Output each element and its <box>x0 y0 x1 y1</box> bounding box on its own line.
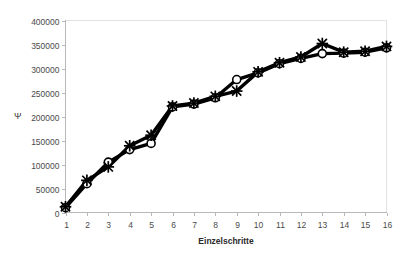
data-point-x <box>124 140 136 152</box>
y-axis-tick-labels: 0500001000001500002000002500003000003500… <box>31 17 60 219</box>
y-axis-tick-label: 250000 <box>31 89 60 99</box>
x-axis-tick-label: 8 <box>213 220 218 230</box>
x-axis-tick-label: 13 <box>318 220 328 230</box>
x-axis-tick-label: 12 <box>297 220 307 230</box>
data-point-x <box>210 91 222 103</box>
data-point-x <box>338 46 350 58</box>
y-axis-tick-label: 300000 <box>31 65 60 75</box>
x-axis-title: Einzelschritte <box>198 236 254 246</box>
x-axis-tick-label: 10 <box>254 220 264 230</box>
data-point-x <box>252 66 264 78</box>
data-point-x <box>188 97 200 109</box>
data-point-x <box>231 85 243 97</box>
data-point-x <box>103 161 115 173</box>
y-axis-tick-label: 150000 <box>31 137 60 147</box>
data-point-x <box>145 129 157 141</box>
x-axis-tick-label: 14 <box>340 220 350 230</box>
y-axis-tick-label: 100000 <box>31 161 60 171</box>
data-point-x <box>295 51 307 63</box>
y-axis-tick-label: 350000 <box>31 41 60 51</box>
y-axis-tick-label: 50000 <box>36 185 60 195</box>
data-point-x <box>81 175 93 187</box>
y-axis-tick-label: 400000 <box>31 17 60 27</box>
x-axis-tick-label: 7 <box>192 220 197 230</box>
x-axis-tick-label: 6 <box>171 220 176 230</box>
x-axis-tick-label: 4 <box>128 220 133 230</box>
data-point-circle <box>318 50 326 58</box>
x-axis-tick-label: 5 <box>149 220 154 230</box>
data-point-x <box>381 41 393 53</box>
line-chart: 0500001000001500002000002500003000003500… <box>0 0 402 257</box>
x-axis-tick-label: 2 <box>85 220 90 230</box>
x-axis-tick-label: 11 <box>276 220 285 230</box>
x-axis-tick-label: 3 <box>106 220 111 230</box>
data-point-x <box>274 57 286 69</box>
y-axis-tick-label: 0 <box>55 209 60 219</box>
data-point-x <box>359 45 371 57</box>
y-axis-tick-label: 200000 <box>31 113 60 123</box>
x-axis-tick-label: 9 <box>235 220 240 230</box>
data-point-x <box>60 201 72 213</box>
data-point-x <box>167 100 179 112</box>
x-axis-tick-label: 16 <box>383 220 393 230</box>
data-point-x <box>317 38 329 50</box>
chart-container: 0500001000001500002000002500003000003500… <box>0 0 402 257</box>
y-axis-title: Ψ <box>14 111 22 121</box>
data-point-circle <box>233 76 241 84</box>
x-axis-tick-label: 15 <box>361 220 371 230</box>
x-axis-tick-label: 1 <box>64 220 69 230</box>
chart-background <box>0 0 402 257</box>
